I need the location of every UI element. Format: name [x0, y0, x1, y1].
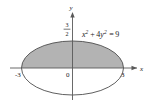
figure-canvas: x y 0 -3 3 3 2 x2+4y2=9 — [0, 0, 149, 107]
y-axis-arrow — [70, 12, 74, 18]
equation-plus-sign: + — [90, 30, 95, 39]
fraction-denominator: 2 — [66, 31, 69, 37]
equation-line: x2+4y2=9 — [81, 29, 119, 39]
y-tick-label-fraction: 3 2 — [64, 22, 71, 37]
equation-term1-exponent: 2 — [86, 29, 89, 35]
equation-right-hand-side: 9 — [115, 30, 119, 39]
fraction-numerator: 3 — [66, 22, 69, 28]
x-tick-label-left: -3 — [15, 71, 21, 79]
equation-equals-sign: = — [109, 30, 114, 39]
ellipse-figure: x y 0 -3 3 3 2 x2+4y2=9 — [0, 0, 149, 107]
equation-annotation: x2+4y2=9 — [81, 29, 119, 39]
origin-label: 0 — [66, 71, 70, 79]
y-axis-label: y — [69, 4, 74, 12]
x-tick-label-right: 3 — [121, 71, 125, 79]
x-axis-label: x — [139, 65, 144, 73]
equation-term2-exponent: 2 — [104, 29, 107, 35]
x-axis-arrow — [132, 66, 138, 70]
